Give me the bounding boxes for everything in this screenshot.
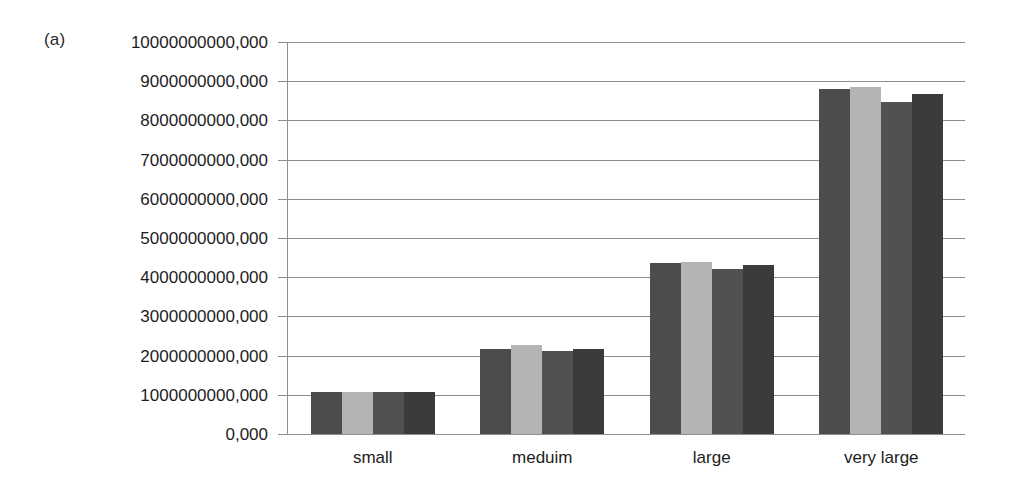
y-axis-tick-label: 1000000000,000 [140,386,268,403]
bar[interactable] [311,392,342,434]
bar-series-container [287,42,965,434]
bar-group [819,42,943,434]
gridline [287,434,965,435]
bar[interactable] [681,262,712,434]
bar[interactable] [573,349,604,434]
bar[interactable] [743,265,774,434]
chart-figure: (a) 0,0001000000000,0002000000000,000300… [0,0,1010,500]
bar[interactable] [542,351,573,434]
bar[interactable] [912,94,943,434]
y-axis-tick-label: 10000000000,000 [131,34,268,51]
y-axis-tick-label: 3000000000,000 [140,308,268,325]
bar[interactable] [373,392,404,434]
y-axis-tick-label: 4000000000,000 [140,269,268,286]
y-axis-tick-label: 8000000000,000 [140,112,268,129]
y-axis-tick-label: 6000000000,000 [140,190,268,207]
bar[interactable] [881,102,912,434]
x-axis-category-label: meduim [512,448,572,468]
y-axis-tick-label: 0,000 [225,426,268,443]
x-axis-category-label: small [353,448,393,468]
bar[interactable] [404,392,435,434]
bar[interactable] [480,349,511,434]
bar-group [480,42,604,434]
plot-area [287,42,965,434]
bar-group [650,42,774,434]
y-axis-tick [278,434,288,435]
bar[interactable] [850,87,881,434]
y-axis-tick-label: 7000000000,000 [140,151,268,168]
y-axis-tick-label: 5000000000,000 [140,230,268,247]
x-axis-category-label: very large [844,448,919,468]
y-axis-tick-label: 9000000000,000 [140,73,268,90]
bar[interactable] [819,89,850,434]
bar-group [311,42,435,434]
y-axis-tick-labels: 0,0001000000000,0002000000000,0003000000… [0,42,278,434]
bar[interactable] [712,269,743,434]
x-axis-category-label: large [693,448,731,468]
x-axis-category-labels: smallmeduimlargevery large [287,448,965,478]
bar[interactable] [511,345,542,434]
bar[interactable] [650,263,681,434]
bar[interactable] [342,392,373,434]
y-axis-tick-label: 2000000000,000 [140,347,268,364]
